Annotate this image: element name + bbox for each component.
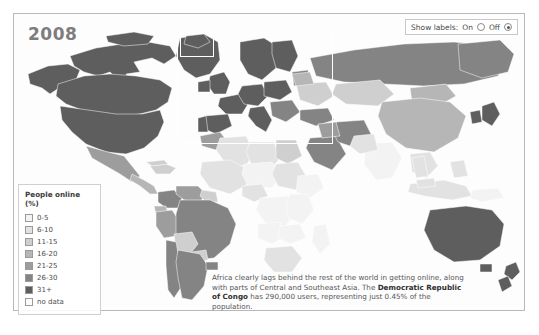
legend: People online (%) 0-56-1011-1516-2021-25…	[18, 184, 101, 315]
legend-item[interactable]: 21-25	[25, 260, 94, 272]
legend-title: People online (%)	[25, 190, 94, 208]
legend-label: 26-30	[37, 274, 57, 282]
page-title: 2008	[28, 24, 77, 44]
legend-item[interactable]: 31+	[25, 284, 94, 296]
legend-item[interactable]: 0-5	[25, 212, 94, 224]
region-uruguay	[206, 262, 218, 270]
region-iraq	[318, 122, 340, 138]
legend-item[interactable]: no data	[25, 296, 94, 308]
legend-label: 6-10	[37, 226, 53, 234]
region-italy	[248, 106, 272, 132]
region-siberia-east	[458, 40, 514, 78]
legend-swatch	[25, 274, 33, 282]
region-balkans	[270, 100, 300, 122]
legend-label: 31+	[37, 286, 52, 294]
region-usa	[60, 106, 164, 154]
legend-label: 0-5	[37, 214, 48, 222]
region-uk	[208, 72, 230, 94]
legend-swatch	[25, 250, 33, 258]
legend-label: 11-15	[37, 238, 57, 246]
region-japan	[482, 102, 500, 126]
region-egypt	[276, 140, 302, 164]
region-finland	[272, 40, 298, 72]
region-belarus	[292, 72, 314, 86]
region-ireland	[198, 80, 210, 92]
legend-label: 16-20	[37, 250, 57, 258]
radio-on[interactable]	[477, 23, 485, 31]
region-southafrica	[264, 246, 302, 272]
region-tasmania	[480, 264, 492, 272]
region-png	[470, 188, 504, 202]
show-labels-control[interactable]: Show labels: On Off	[405, 19, 518, 35]
legend-swatch	[25, 214, 33, 222]
legend-swatch	[25, 226, 33, 234]
region-poland	[264, 80, 292, 100]
show-labels-label: Show labels:	[411, 23, 458, 32]
radio-on-label[interactable]: On	[462, 23, 473, 32]
map-annotation: Africa clearly lags behind the rest of t…	[212, 273, 470, 311]
legend-swatch	[25, 298, 33, 306]
region-arctic-islands	[106, 32, 154, 46]
region-korea	[470, 110, 482, 124]
legend-rows: 0-56-1011-1516-2021-2526-3031+no data	[25, 212, 94, 308]
region-pakistan	[350, 134, 378, 154]
legend-swatch	[25, 238, 33, 246]
legend-item[interactable]: 16-20	[25, 248, 94, 260]
legend-label: 21-25	[37, 262, 57, 270]
map-panel: 2008 Show labels: On Off People online (…	[13, 13, 525, 311]
world-map-visualization: 2008 Show labels: On Off People online (…	[0, 0, 539, 335]
region-centralamerica	[130, 174, 158, 194]
region-portugal	[198, 116, 208, 132]
legend-item[interactable]: 11-15	[25, 236, 94, 248]
legend-swatch	[25, 286, 33, 294]
region-philippines	[450, 160, 468, 178]
legend-swatch	[25, 262, 33, 270]
region-australia	[424, 206, 504, 262]
region-zambia	[278, 224, 306, 244]
legend-item[interactable]: 26-30	[25, 272, 94, 284]
region-madagascar	[312, 224, 330, 254]
legend-item[interactable]: 6-10	[25, 224, 94, 236]
radio-off-label[interactable]: Off	[489, 23, 500, 32]
radio-off[interactable]	[504, 23, 512, 31]
region-malaysia	[416, 178, 436, 188]
legend-label: no data	[37, 298, 64, 306]
